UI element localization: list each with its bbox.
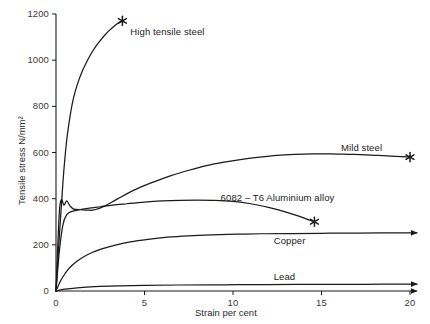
x-tick-label: 20 [390, 297, 430, 308]
curve-lead [56, 284, 417, 291]
chart-container: 02004006008001000120005101520 Tensile st… [0, 0, 430, 324]
curve-mild-steel [56, 154, 410, 291]
y-tick-label: 1000 [0, 54, 49, 65]
series-label-mild-steel: Mild steel [341, 142, 382, 153]
x-tick-label: 15 [302, 297, 342, 308]
curve-copper [56, 233, 417, 291]
y-tick-label: 800 [0, 100, 49, 111]
series-label-lead: Lead [274, 271, 296, 282]
fracture-marker-asterisk [118, 16, 126, 25]
x-tick-label: 0 [36, 297, 76, 308]
x-axis-title: Strain per cent [195, 307, 257, 318]
y-tick-label: 1200 [0, 8, 49, 19]
fracture-marker-asterisk [310, 217, 318, 226]
chart-plot-area [0, 0, 430, 324]
y-tick-label: 0 [0, 285, 49, 296]
y-axis-title: Tensile stress N/mm² [16, 116, 27, 205]
curve-high-tensile-steel [56, 21, 122, 291]
y-tick-label: 200 [0, 239, 49, 250]
series-label-high-tensile-steel: High tensile steel [130, 26, 204, 37]
series-label-copper: Copper [274, 235, 306, 246]
data-curves [56, 21, 417, 291]
x-tick-label: 5 [125, 297, 165, 308]
series-label-6082-t6-aluminium-alloy: 6082 – T6 Aluminium alloy [221, 192, 335, 203]
